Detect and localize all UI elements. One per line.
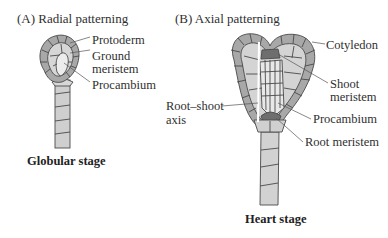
label-procambium-b: Procambium	[313, 113, 377, 126]
label-shoot-meristem-line2: meristem	[330, 91, 377, 104]
label-cotyledon: Cotyledon	[326, 39, 378, 52]
label-procambium-a: Procambium	[92, 79, 156, 92]
root-shoot-axis-line	[258, 42, 259, 122]
heart-stage-caption: Heart stage	[245, 213, 306, 226]
shoot-meristem	[261, 49, 280, 59]
heart-embryo	[231, 34, 315, 205]
globular-embryo	[40, 35, 79, 148]
panel-b-title: (B) Axial patterning	[175, 12, 280, 25]
heart-suspensor	[260, 132, 279, 205]
globular-stage-caption: Globular stage	[27, 155, 106, 168]
label-root-shoot-axis-line2: axis	[166, 114, 186, 127]
label-protoderm: Protoderm	[92, 34, 145, 47]
label-ground-meristem-line2: meristem	[92, 63, 139, 76]
globular-suspensor	[52, 79, 73, 148]
label-root-meristem: Root meristem	[305, 136, 379, 149]
label-root-shoot-axis-line1: Root–shoot	[166, 100, 224, 113]
panel-a-title: (A) Radial patterning	[17, 12, 128, 25]
